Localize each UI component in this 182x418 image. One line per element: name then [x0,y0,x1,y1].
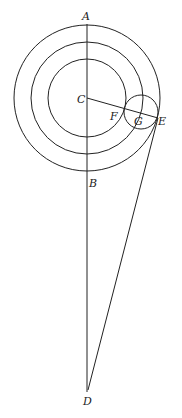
label-e: E [157,115,166,128]
label-b: B [88,177,97,190]
label-d: D [82,395,92,408]
label-c: C [77,93,86,106]
geometry-diagram: A C F G E B D [0,0,182,418]
label-a: A [81,10,90,23]
label-g: G [134,115,143,128]
line-e-d [88,118,158,390]
label-f: F [109,110,118,123]
